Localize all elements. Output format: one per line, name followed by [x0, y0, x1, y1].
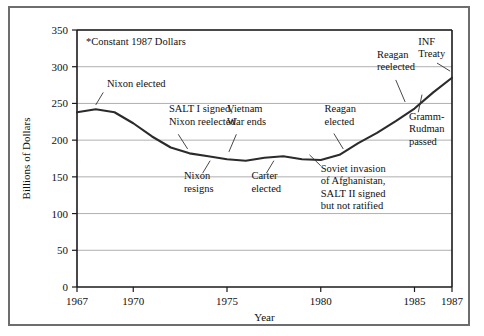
annotation-reagan-elected: Reaganelected [325, 103, 357, 149]
annotation-label-nixon-resigns-line-0: Nixon [184, 170, 211, 181]
annotation-label-carter-elected-line-0: Carter [251, 170, 278, 181]
axis-titles: YearBillions of Dollars [20, 118, 275, 323]
annotation-label-nixon-elected-line-0: Nixon elected [107, 78, 166, 89]
ytick-label-150: 150 [52, 171, 69, 183]
annotation-label-soviet-invasion-line-2: SALT II signed [321, 188, 387, 199]
annotation-label-gramm-rudman-line-2: passed [409, 136, 438, 147]
ytick-label-0: 0 [63, 281, 69, 293]
ytick-label-300: 300 [52, 61, 69, 73]
xtick-label-1975: 1975 [216, 295, 239, 307]
leader-line-reagan-elected [334, 134, 343, 149]
annotation-nixon-resigns: Nixonresigns [184, 161, 214, 194]
leader-line-reagan-reelected [396, 80, 405, 102]
annotation-nixon-elected: Nixon elected [96, 78, 167, 105]
annotation-label-gramm-rudman-line-0: Gramm- [409, 111, 445, 122]
x-axis-title: Year [254, 311, 275, 323]
annotation-inf-treaty: INFTreaty [418, 36, 450, 71]
annotation-label-soviet-invasion-line-3: but not ratified [321, 200, 384, 211]
ytick-label-100: 100 [52, 208, 69, 220]
y-axis-title: Billions of Dollars [20, 118, 32, 200]
annotation-label-gramm-rudman-line-1: Rudman [409, 123, 445, 134]
xtick-label-1967: 1967 [66, 295, 89, 307]
annotation-label-carter-elected-line-1: elected [251, 183, 281, 194]
leader-line-vietnam-war-ends [229, 134, 237, 152]
defense-spending-line-chart: 0501001502002503003501967197019751980198… [0, 0, 484, 336]
annotation-label-reagan-elected-line-1: elected [325, 116, 355, 127]
xtick-label-1970: 1970 [122, 295, 145, 307]
ytick-label-350: 350 [52, 24, 69, 36]
xtick-label-1987: 1987 [441, 295, 464, 307]
annotation-label-soviet-invasion-line-1: of Afghanistan, [321, 175, 386, 186]
annotation-label-nixon-resigns-line-1: resigns [184, 183, 214, 194]
annotation-label-inf-treaty-line-1: Treaty [418, 48, 446, 59]
annotations: Nixon electedSALT I signed,Nixon reelect… [96, 36, 450, 212]
leader-line-nixon-elected [96, 92, 104, 104]
annotation-label-vietnam-war-ends-line-1: War ends [227, 116, 266, 127]
constant-dollars-note: *Constant 1987 Dollars [86, 36, 186, 47]
ytick-label-50: 50 [57, 244, 69, 256]
ytick-label-200: 200 [52, 134, 69, 146]
annotation-label-inf-treaty-line-0: INF [418, 36, 435, 47]
annotation-label-reagan-elected-line-0: Reagan [325, 103, 357, 114]
annotation-reagan-reelected: Reaganreelected [377, 49, 416, 102]
chart-page: 0501001502002503003501967197019751980198… [0, 0, 484, 336]
annotation-label-salt-i-signed-line-0: SALT I signed, [169, 103, 233, 114]
xtick-label-1980: 1980 [310, 295, 333, 307]
leader-line-salt-i-signed [178, 134, 187, 149]
annotation-label-vietnam-war-ends-line-0: Vietnam [227, 103, 263, 114]
annotation-vietnam-war-ends: VietnamWar ends [227, 103, 266, 152]
annotation-gramm-rudman: Gramm-Rudmanpassed [409, 95, 445, 147]
xtick-label-1985: 1985 [404, 295, 427, 307]
annotation-label-reagan-reelected-line-1: reelected [377, 61, 416, 72]
annotation-soviet-invasion: Soviet invasionof Afghanistan,SALT II si… [310, 155, 387, 211]
annotation-label-reagan-reelected-line-0: Reagan [377, 49, 409, 60]
ytick-label-250: 250 [52, 97, 69, 109]
annotation-carter-elected: Carterelected [251, 161, 281, 194]
annotation-label-soviet-invasion-line-0: Soviet invasion [321, 163, 387, 174]
